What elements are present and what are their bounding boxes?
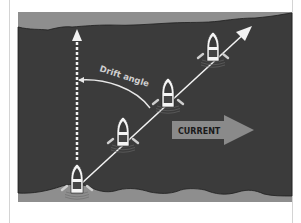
drift-angle-diagram: Drift angle CURRENT xyxy=(0,0,301,223)
water xyxy=(18,13,292,196)
current-label: CURRENT xyxy=(178,127,221,136)
